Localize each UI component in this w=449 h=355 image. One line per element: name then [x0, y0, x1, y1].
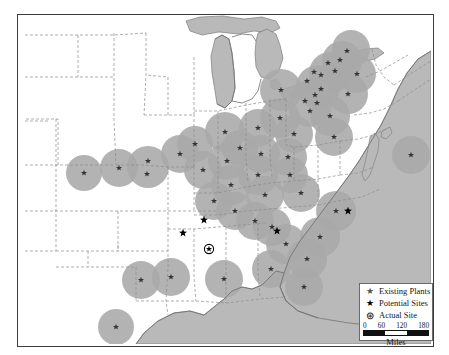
map-frame: ★ Existing Plants ★ Potential Sites ⊛ Ac…	[17, 14, 434, 347]
scale-unit-label: Miles	[360, 337, 432, 347]
legend-row-potential-sites: ★ Potential Sites	[360, 298, 432, 309]
scale-bar-segment-3	[407, 331, 428, 335]
legend-label-actual-site: Actual Site	[379, 311, 417, 320]
gray-star-icon: ★	[360, 287, 379, 296]
legend-label-existing-plants: Existing Plants	[379, 287, 430, 296]
map-screenshot: ★ Existing Plants ★ Potential Sites ⊛ Ac…	[0, 0, 449, 355]
circled-star-icon: ⊛	[360, 311, 379, 320]
legend-label-potential-sites: Potential Sites	[379, 299, 428, 308]
scale-tick-0: 0	[363, 322, 367, 330]
black-star-icon: ★	[360, 299, 379, 308]
scale-tick-60: 60	[378, 322, 385, 330]
scale-tick-180: 180	[418, 322, 429, 330]
legend-row-existing-plants: ★ Existing Plants	[360, 286, 432, 297]
scale-bar-segment-2	[385, 331, 406, 335]
scale-bar-segment-1	[364, 331, 385, 335]
scale-bar-ticks: 0 60 120 180	[360, 322, 432, 330]
scale-bar	[363, 330, 429, 336]
legend-row-actual-site: ⊛ Actual Site	[360, 310, 432, 321]
map-legend: ★ Existing Plants ★ Potential Sites ⊛ Ac…	[359, 283, 433, 341]
scale-tick-120: 120	[396, 322, 407, 330]
